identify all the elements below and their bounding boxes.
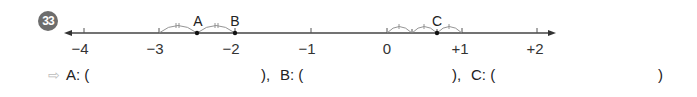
point-a-label: A: [193, 13, 202, 29]
point-b-label: B: [230, 13, 239, 29]
tick-label: +2: [526, 40, 543, 57]
point-c: [435, 31, 439, 35]
tick-label: −4: [71, 40, 88, 57]
point-b: [233, 31, 237, 35]
point-a: [195, 31, 199, 35]
answer-arrow-icon: ⇨: [48, 67, 60, 83]
number-line: [0, 0, 697, 60]
point-c-label: C: [432, 13, 442, 29]
tick-label: +1: [451, 40, 468, 57]
answer-b-close: ),: [452, 66, 461, 83]
answer-a-close: ),: [261, 66, 270, 83]
tick-label: −3: [146, 40, 163, 57]
left-arrow-icon: [64, 30, 72, 36]
answer-a-label: A: (: [66, 66, 89, 83]
answer-b-label: B: (: [280, 66, 303, 83]
tick-label: 0: [383, 40, 391, 57]
right-arrow-icon: [548, 30, 556, 36]
answer-c-label: C: (: [471, 66, 495, 83]
tick-label: −1: [298, 40, 315, 57]
tick-label: −2: [222, 40, 239, 57]
answer-c-close: ): [658, 66, 663, 83]
